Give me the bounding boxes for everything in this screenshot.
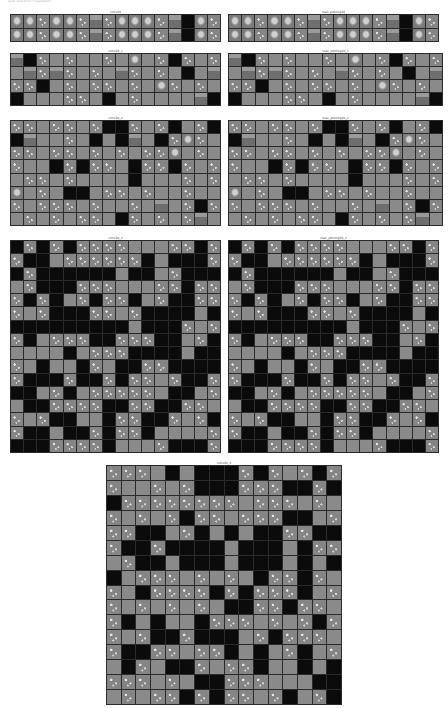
feature-map-cell (155, 93, 167, 105)
feature-map-cell (107, 675, 121, 689)
feature-map-cell (321, 387, 333, 399)
feature-map-cell (390, 121, 402, 133)
feature-map-cell (37, 174, 49, 186)
feature-map-cell (309, 80, 321, 92)
feature-map-cell (334, 254, 346, 266)
feature-map-cell (77, 80, 89, 92)
feature-map-cell (195, 93, 207, 105)
feature-map-cell (103, 374, 115, 386)
feature-map-cell (242, 281, 254, 293)
feature-map-cell (182, 54, 194, 66)
feature-map-cell (254, 615, 268, 629)
feature-map-cell (336, 187, 348, 199)
feature-map-cell (269, 496, 283, 510)
feature-map-cell (321, 307, 333, 319)
feature-map-cell (413, 387, 425, 399)
feature-map-cell (210, 541, 224, 555)
feature-map-cell (107, 481, 121, 495)
feature-map-cell (155, 200, 167, 212)
feature-map-cell (403, 213, 415, 225)
feature-map-cell (155, 347, 167, 359)
feature-map-cell (225, 496, 239, 510)
feature-map-cell (90, 147, 102, 159)
feature-map-cell (116, 427, 128, 439)
feature-map-cell (122, 556, 136, 570)
feature-map-cell (327, 660, 341, 674)
feature-map-cell (11, 294, 23, 306)
feature-map-cell (155, 241, 167, 253)
feature-map-cell (169, 427, 181, 439)
feature-map-cell (321, 15, 333, 28)
feature-map-cell (283, 615, 297, 629)
feature-map-cell (103, 15, 115, 28)
feature-map-cell (90, 241, 102, 253)
feature-map-cell (142, 387, 154, 399)
feature-map-cell (363, 134, 375, 146)
feature-map-cell (64, 374, 76, 386)
feature-map-cell (195, 29, 207, 42)
feature-map-cell (256, 54, 268, 66)
feature-map-cell (349, 187, 361, 199)
feature-map-cell (373, 374, 385, 386)
feature-map-cell (77, 387, 89, 399)
feature-map-cell (295, 440, 307, 452)
feature-map-cell (151, 496, 165, 510)
feature-map-cell (90, 213, 102, 225)
feature-map-cell (416, 54, 428, 66)
feature-map-cell (282, 241, 294, 253)
feature-map-cell (295, 321, 307, 333)
feature-map-cell (37, 387, 49, 399)
feature-map-cell (24, 387, 36, 399)
feature-map-cell (182, 80, 194, 92)
feature-map-cell (77, 413, 89, 425)
feature-map-cell (242, 174, 254, 186)
feature-map-cell (182, 93, 194, 105)
feature-map-cell (103, 200, 115, 212)
feature-map-cell (229, 334, 241, 346)
panel-conv2d: conv2d (10, 10, 221, 42)
feature-map-grid (10, 240, 221, 453)
feature-map-cell (413, 334, 425, 346)
feature-map-cell (77, 254, 89, 266)
feature-map-cell (180, 541, 194, 555)
feature-map-cell (129, 400, 141, 412)
feature-map-cell (255, 440, 267, 452)
feature-map-cell (50, 334, 62, 346)
feature-map-cell (283, 213, 295, 225)
feature-map-cell (208, 187, 220, 199)
feature-map-cell (403, 147, 415, 159)
feature-map-cell (225, 630, 239, 644)
feature-map-cell (11, 121, 23, 133)
feature-map-cell (283, 541, 297, 555)
feature-map-cell (283, 134, 295, 146)
feature-map-cell (282, 281, 294, 293)
feature-map-cell (400, 307, 412, 319)
feature-map-cell (103, 254, 115, 266)
feature-map-cell (349, 93, 361, 105)
feature-map-cell (283, 67, 295, 79)
feature-map-cell (151, 556, 165, 570)
feature-map-cell (298, 600, 312, 614)
feature-map-cell (309, 147, 321, 159)
feature-map-cell (166, 630, 180, 644)
feature-map-cell (24, 427, 36, 439)
feature-map-cell (254, 600, 268, 614)
feature-map-cell (151, 466, 165, 480)
feature-map-cell (103, 147, 115, 159)
feature-map-cell (363, 160, 375, 172)
feature-map-cell (295, 241, 307, 253)
feature-map-cell (309, 187, 321, 199)
feature-map-cell (282, 347, 294, 359)
feature-map-cell (360, 294, 372, 306)
feature-map-cell (387, 15, 399, 28)
feature-map-cell (136, 541, 150, 555)
feature-map-cell (282, 360, 294, 372)
feature-map-cell (64, 93, 76, 105)
feature-map-cell (298, 615, 312, 629)
feature-map-cell (24, 147, 36, 159)
feature-map-cell (182, 174, 194, 186)
feature-map-cell (309, 134, 321, 146)
feature-map-cell (77, 121, 89, 133)
feature-map-cell (268, 347, 280, 359)
feature-map-cell (107, 571, 121, 585)
